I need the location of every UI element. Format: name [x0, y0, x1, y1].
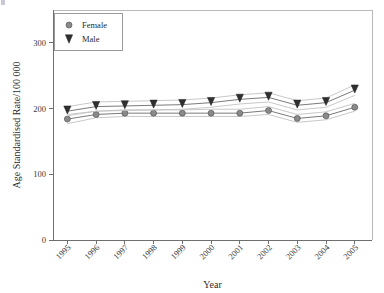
data-point-male [150, 100, 157, 108]
data-point-male [121, 101, 128, 109]
data-point-female [64, 116, 70, 122]
data-point-female [294, 115, 300, 121]
y-axis-title: Age Standardised Rate/100 000 [11, 62, 22, 189]
data-point-male [351, 85, 358, 93]
x-tick-label: 1998 [140, 242, 159, 261]
data-point-female [179, 110, 185, 116]
data-point-female [208, 110, 214, 116]
y-tick-label: 100 [33, 169, 46, 179]
data-point-female [323, 113, 329, 119]
x-tick-label: 2004 [312, 242, 332, 262]
data-point-male [179, 99, 186, 107]
data-point-female [266, 108, 272, 114]
y-tick-label: 0 [42, 235, 46, 245]
line-chart: 0100200300199519961997199819992000200120… [0, 0, 384, 293]
x-tick-label: 2002 [255, 242, 274, 261]
legend-label-female: Female [82, 20, 107, 30]
x-axis-title: Year [203, 279, 222, 290]
y-tick-label: 200 [33, 104, 46, 114]
x-tick-label: 2001 [226, 242, 245, 261]
scan-artifact [1, 0, 5, 5]
x-tick-label: 2005 [341, 242, 360, 261]
data-point-female [122, 110, 128, 116]
x-tick-label: 1996 [82, 242, 101, 261]
data-point-female [93, 111, 99, 117]
x-tick-label: 1995 [54, 242, 73, 261]
chart-figure: 0100200300199519961997199819992000200120… [0, 0, 384, 293]
data-point-female [151, 110, 157, 116]
legend-box [54, 13, 122, 50]
data-point-female [237, 110, 243, 116]
data-point-female [352, 104, 358, 110]
data-point-male [236, 94, 243, 102]
legend-label-male: Male [82, 34, 100, 44]
x-tick-label: 1997 [111, 242, 130, 261]
data-point-male [93, 101, 100, 109]
x-tick-label: 1999 [169, 242, 188, 261]
x-tick-label: 2000 [197, 242, 216, 261]
data-point-male [265, 92, 272, 100]
data-point-male [207, 97, 214, 105]
x-tick-label: 2003 [284, 242, 303, 261]
chart-legend: FemaleMale [54, 13, 122, 50]
y-tick-label: 300 [33, 38, 46, 48]
data-point-male [64, 106, 71, 114]
legend-marker-circle [66, 22, 72, 28]
